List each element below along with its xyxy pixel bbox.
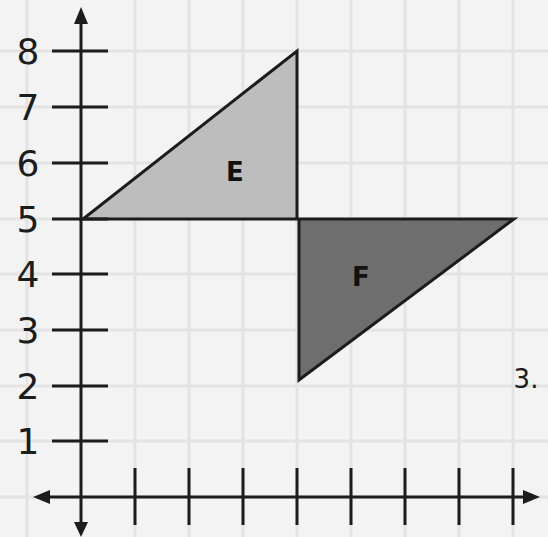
y-label-7: 7 [17,87,40,128]
x-axis-arrow-left-icon [33,490,50,504]
y-label-2: 2 [17,366,40,407]
x-axis-arrow-right-icon [523,490,540,504]
y-label-8: 8 [17,31,40,72]
y-label-1: 1 [17,421,40,462]
label-f: F [352,262,370,292]
y-label-4: 4 [17,254,40,295]
y-label-5: 5 [17,199,40,240]
y-label-6: 6 [17,143,40,184]
label-e: E [226,157,244,187]
y-axis-arrow-up-icon [74,7,88,24]
coordinate-plane: 8 7 6 5 4 3 2 1 E F 3. [0,0,548,537]
y-label-3: 3 [17,310,40,351]
problem-number: 3. [514,364,539,394]
y-axis-arrow-down-icon [74,522,88,537]
